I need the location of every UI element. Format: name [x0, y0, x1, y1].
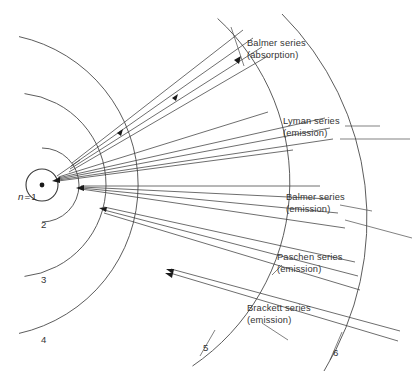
nucleus-dot-icon — [40, 183, 45, 188]
label-balmer-emission-mode: (emission) — [286, 204, 345, 216]
label-balmer-absorption: Balmer series (absorption) — [247, 38, 306, 61]
shell-label-6: 6 — [333, 347, 338, 358]
leader-balmer-emission-b — [345, 220, 412, 238]
shell-arc-2 — [42, 148, 79, 222]
shell-label-2: 2 — [41, 219, 46, 230]
arrowhead-outward-n4 — [234, 56, 241, 64]
label-brackett-emission-name: Brackett series — [247, 303, 311, 315]
shell-label-3: 3 — [41, 274, 46, 285]
label-lyman-emission-mode: (emission) — [283, 128, 340, 140]
rays-balmer-absorption — [69, 30, 268, 172]
label-balmer-emission-name: Balmer series — [286, 192, 345, 204]
arrowhead-inward-paschen — [99, 207, 107, 212]
label-brackett-emission-mode: (emission) — [247, 315, 311, 327]
shell-label-1-equals: = — [24, 191, 30, 202]
shell-label-1-value: 1 — [31, 191, 36, 202]
rays-paschen-emission — [99, 207, 360, 290]
bohr-series-diagram: Balmer series (absorption) Lyman series … — [0, 0, 419, 381]
shell-label-1-prefix: n — [18, 191, 23, 202]
diagram-canvas — [0, 0, 419, 381]
label-lyman-emission-name: Lyman series — [283, 116, 340, 128]
label-lyman-emission: Lyman series (emission) — [283, 116, 340, 139]
label-paschen-emission-mode: (emission) — [277, 264, 343, 276]
arrowhead-outward-n3 — [117, 129, 123, 136]
shell-arc-3 — [25, 94, 107, 277]
label-balmer-absorption-name: Balmer series — [247, 38, 306, 50]
label-balmer-emission: Balmer series (emission) — [286, 192, 345, 215]
arrowhead-outward-n2 — [172, 94, 178, 101]
label-paschen-emission-name: Paschen series — [277, 252, 343, 264]
label-brackett-emission: Brackett series (emission) — [247, 303, 311, 326]
shell-label-5: 5 — [203, 342, 208, 353]
shell-label-1: n=1 — [18, 191, 37, 202]
shell-label-4: 4 — [41, 334, 46, 345]
label-paschen-emission: Paschen series (emission) — [277, 252, 343, 275]
arrowhead-inward-brackett-2 — [165, 273, 173, 278]
arrowhead-inward-balmer — [76, 185, 84, 191]
label-balmer-absorption-mode: (absorption) — [247, 50, 306, 62]
